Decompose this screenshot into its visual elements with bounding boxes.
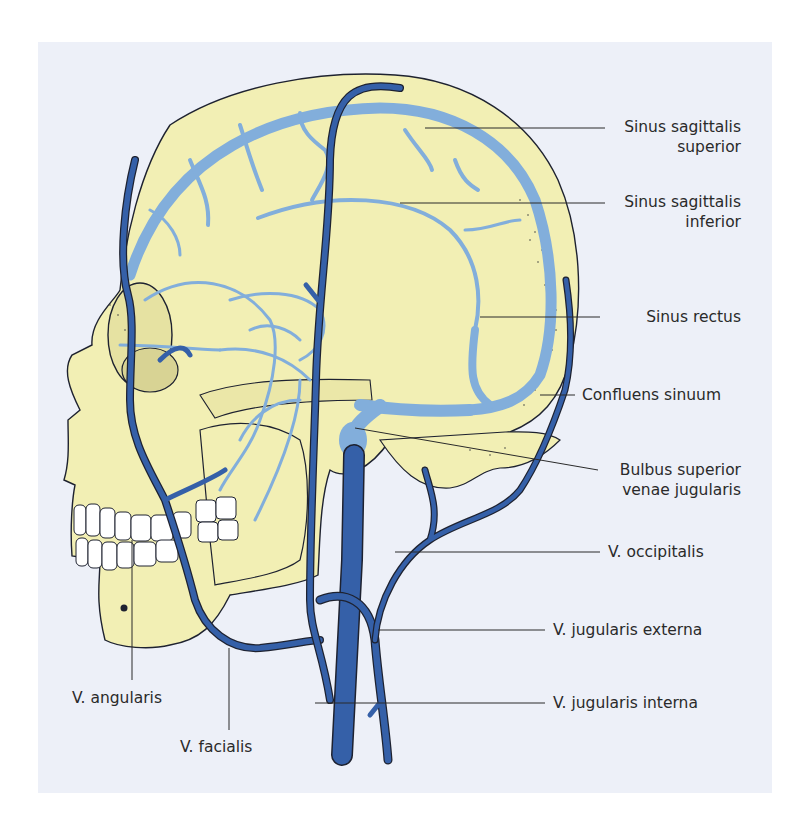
label-v-jugularis-externa: V. jugularis externa [553,620,702,640]
label-line-1: Sinus sagittalis [560,192,741,212]
label-sinus-sagittalis-inferior: Sinus sagittalis inferior [560,192,741,232]
label-v-facialis: V. facialis [180,737,252,757]
label-confluens-sinuum: Confluens sinuum [582,385,721,405]
label-sinus-rectus: Sinus rectus [560,307,741,327]
label-line-2: venae jugularis [560,480,741,500]
label-line-2: inferior [560,212,741,232]
label-line-1: Bulbus superior [560,460,741,480]
label-bulbus-superior-venae-jugularis: Bulbus superior venae jugularis [560,460,741,500]
label-v-jugularis-interna: V. jugularis interna [553,693,698,713]
label-line-2: superior [560,137,741,157]
label-v-occipitalis: V. occipitalis [608,542,704,562]
label-v-angularis: V. angularis [72,688,162,708]
label-sinus-sagittalis-superior: Sinus sagittalis superior [560,117,741,157]
mental-foramen [121,605,128,612]
occipital-region [380,432,560,488]
label-line-1: Sinus sagittalis [560,117,741,137]
